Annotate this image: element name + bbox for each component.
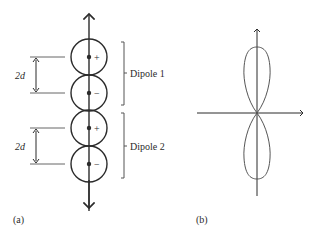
panel-b: (b) (196, 29, 303, 226)
charge-dot (87, 91, 91, 95)
dipole-diagram: + − + − 2d 2d Dipole 1 Dipole 2 (a) (0, 0, 319, 235)
panel-b-label: (b) (196, 214, 208, 226)
spacing-label: 2d (15, 141, 26, 152)
spacing-label: 2d (15, 70, 26, 81)
charge-dot (87, 126, 91, 130)
dipole-1-label: Dipole 1 (130, 68, 165, 79)
panel-a-label: (a) (13, 214, 24, 226)
dipole-2-bracket: Dipole 2 (121, 113, 165, 178)
dipole-1-bracket: Dipole 1 (121, 42, 165, 105)
charge-sign: − (94, 159, 100, 170)
charge-dot (87, 162, 91, 166)
dipole-2-label: Dipole 2 (130, 141, 165, 152)
spacing-marker-2: 2d (15, 128, 65, 164)
charge-sign: − (94, 88, 100, 99)
spacing-marker-1: 2d (15, 57, 65, 93)
panel-a: + − + − 2d 2d Dipole 1 Dipole 2 (a) (13, 14, 165, 226)
charge-dot (87, 55, 91, 59)
charge-sign: + (94, 52, 100, 63)
charge-sign: + (94, 123, 100, 134)
